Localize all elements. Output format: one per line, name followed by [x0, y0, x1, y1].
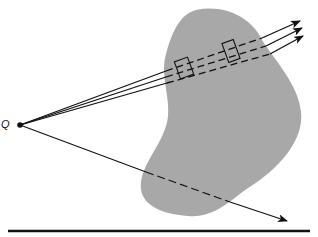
- point-q: [17, 122, 23, 128]
- diagram-svg: [0, 0, 318, 237]
- point-label-q: Q: [1, 118, 10, 130]
- diagram-canvas: Q: [0, 0, 318, 237]
